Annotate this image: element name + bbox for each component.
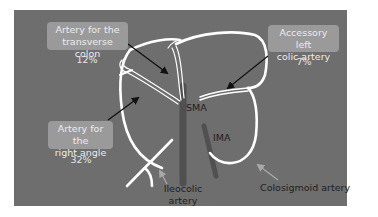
callout-right-angle: Artery for the right angle <box>48 121 113 149</box>
callout-transverse-colon: Artery for the transverse colon <box>47 22 128 50</box>
callout-transverse-line1: Artery for the <box>51 24 124 36</box>
label-ileocolic-line1: Ileocolic <box>160 183 206 195</box>
label-sma: SMA <box>186 102 207 114</box>
colic-vessels <box>120 14 285 186</box>
percent-transverse-colon: 12% <box>72 54 102 65</box>
arrow-transverse <box>128 44 167 73</box>
label-ileocolic-artery: Ileocolic artery <box>160 183 206 207</box>
percent-right-angle: 32% <box>66 154 96 165</box>
arrow-colosigmoid <box>258 165 278 180</box>
diagram-stage: Artery for the transverse colon 12% Acce… <box>0 0 378 217</box>
callout-accessory-line1: Accessory left <box>272 27 335 51</box>
label-colosigmoid-artery: Colosigmoid artery <box>260 182 350 194</box>
callout-right-angle-line1: Artery for the <box>52 123 109 147</box>
percent-accessory-left-colic: 7% <box>289 56 319 67</box>
callout-accessory-left-colic: Accessory left colic artery <box>268 25 339 52</box>
label-ima: IMA <box>213 132 231 144</box>
label-ileocolic-line2: artery <box>160 195 206 207</box>
